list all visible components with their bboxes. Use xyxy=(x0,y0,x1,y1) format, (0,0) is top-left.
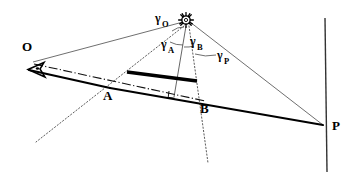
label-gamma-P-sub: P xyxy=(224,56,229,66)
sun-icon xyxy=(179,13,194,28)
figure-canvas: O A B P γ O γ A γ B γ xyxy=(0,0,348,177)
label-point-A: A xyxy=(103,88,113,103)
label-A-text: A xyxy=(103,88,113,103)
label-gamma-B-sub: B xyxy=(197,42,203,52)
label-B-text: B xyxy=(200,101,209,116)
label-gamma-P-base: γ xyxy=(216,48,223,62)
label-O-text: O xyxy=(22,39,32,54)
diagram-background xyxy=(0,0,348,177)
label-gamma-O-sub: O xyxy=(162,19,169,29)
label-point-P: P xyxy=(332,118,340,133)
sun-angle-diagram: O A B P γ O γ A γ B γ xyxy=(0,0,348,177)
label-gamma-O-base: γ xyxy=(154,11,161,25)
label-P-text: P xyxy=(332,118,340,133)
label-point-B: B xyxy=(200,101,209,116)
label-gamma-B-base: γ xyxy=(189,34,196,48)
label-gamma-A-base: γ xyxy=(160,37,167,51)
label-gamma-A-sub: A xyxy=(168,45,175,55)
label-observer-O: O xyxy=(22,39,32,54)
